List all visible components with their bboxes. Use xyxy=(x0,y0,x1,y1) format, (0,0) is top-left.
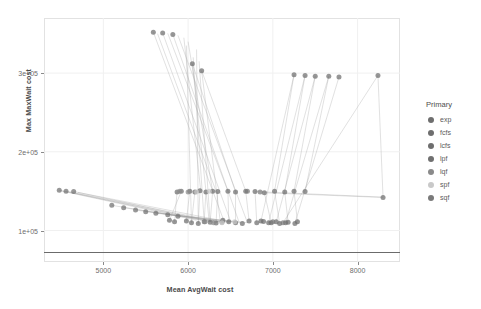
legend-item-fcfs[interactable]: fcfs xyxy=(424,126,480,139)
data-point xyxy=(292,189,297,194)
legend-title: Primary xyxy=(426,100,480,109)
legend-item-spf[interactable]: spf xyxy=(424,178,480,191)
data-point xyxy=(225,189,230,194)
x-tick-label: 7000 xyxy=(265,267,281,274)
data-point xyxy=(226,219,231,224)
data-point xyxy=(199,68,204,73)
x-tick-mark xyxy=(358,262,359,265)
data-point xyxy=(133,208,138,213)
connector-lines xyxy=(59,32,383,223)
data-point xyxy=(109,203,114,208)
data-point xyxy=(282,189,287,194)
legend-item-lpf[interactable]: lpf xyxy=(424,152,480,165)
data-point xyxy=(262,190,267,195)
legend-item-lqf[interactable]: lqf xyxy=(424,165,480,178)
data-point xyxy=(211,220,216,225)
x-tick-mark xyxy=(103,262,104,265)
gridlines xyxy=(44,18,400,262)
data-point xyxy=(207,189,212,194)
data-point xyxy=(57,188,62,193)
data-point xyxy=(253,189,258,194)
y-tick-mark xyxy=(41,152,44,153)
data-point xyxy=(247,219,252,224)
data-point xyxy=(71,189,76,194)
data-point xyxy=(233,189,238,194)
data-point xyxy=(165,212,170,217)
x-tick-label: 5000 xyxy=(96,267,112,274)
legend-item-sqf[interactable]: sqf xyxy=(424,191,480,204)
plot-panel xyxy=(44,18,400,262)
y-tick-label: 2e+05 xyxy=(2,148,38,155)
data-point xyxy=(270,219,275,224)
legend-item-label: spf xyxy=(440,181,449,188)
x-axis-title: Mean AvgWait cost xyxy=(0,285,400,294)
scatter-plot-figure: Max MaxWait cost Mean AvgWait cost 50006… xyxy=(0,0,481,309)
legend-key-icon xyxy=(424,165,437,178)
data-point xyxy=(381,195,386,200)
legend-item-label: sqf xyxy=(440,194,449,201)
data-point xyxy=(175,214,180,219)
y-tick-mark xyxy=(41,231,44,232)
data-point xyxy=(258,219,263,224)
data-point xyxy=(190,61,195,66)
data-point xyxy=(167,218,172,223)
data-point xyxy=(375,73,380,78)
legend-items: expfcfslcfslpflqfspfsqf xyxy=(424,113,480,204)
data-point xyxy=(292,221,297,226)
data-point xyxy=(266,220,271,225)
legend-key-icon xyxy=(424,178,437,191)
data-points xyxy=(57,30,386,226)
y-tick-label: 1e+05 xyxy=(2,227,38,234)
legend-item-exp[interactable]: exp xyxy=(424,113,480,126)
data-point xyxy=(189,220,194,225)
data-point xyxy=(184,219,189,224)
data-point xyxy=(313,74,318,79)
data-point xyxy=(232,219,237,224)
data-point xyxy=(336,75,341,80)
legend-item-label: exp xyxy=(440,116,451,123)
data-point xyxy=(64,189,69,194)
legend-key-icon xyxy=(424,152,437,165)
x-tick-label: 6000 xyxy=(180,267,196,274)
legend-item-lcfs[interactable]: lcfs xyxy=(424,139,480,152)
data-point xyxy=(215,189,220,194)
plot-canvas xyxy=(44,18,400,262)
legend-key-icon xyxy=(424,126,437,139)
legend-item-label: lcfs xyxy=(440,142,451,149)
data-point xyxy=(172,219,177,224)
data-point xyxy=(196,221,201,226)
data-point xyxy=(258,189,263,194)
data-point xyxy=(303,73,308,78)
circle-icon xyxy=(428,195,434,201)
data-point xyxy=(121,205,126,210)
data-point xyxy=(303,189,308,194)
legend-key-icon xyxy=(424,191,437,204)
x-tick-label: 8000 xyxy=(350,267,366,274)
data-point xyxy=(245,189,250,194)
y-tick-label: 3e+05 xyxy=(2,70,38,77)
data-point xyxy=(151,30,156,35)
data-point xyxy=(272,189,277,194)
data-point xyxy=(170,32,175,37)
legend-item-label: lqf xyxy=(440,168,447,175)
data-point xyxy=(153,211,158,216)
data-point xyxy=(160,30,165,35)
data-point xyxy=(177,189,182,194)
legend-key-icon xyxy=(424,139,437,152)
x-tick-mark xyxy=(273,262,274,265)
circle-icon xyxy=(428,143,434,149)
data-point xyxy=(281,220,286,225)
circle-icon xyxy=(428,169,434,175)
data-point xyxy=(194,189,199,194)
legend-item-label: lpf xyxy=(440,155,447,162)
data-point xyxy=(203,219,208,224)
circle-icon xyxy=(428,182,434,188)
y-tick-mark xyxy=(41,73,44,74)
y-axis-title: Max MaxWait cost xyxy=(24,21,33,181)
circle-icon xyxy=(428,156,434,162)
data-point xyxy=(292,72,297,77)
x-tick-mark xyxy=(188,262,189,265)
circle-icon xyxy=(428,117,434,123)
data-point xyxy=(220,220,225,225)
circle-icon xyxy=(428,130,434,136)
